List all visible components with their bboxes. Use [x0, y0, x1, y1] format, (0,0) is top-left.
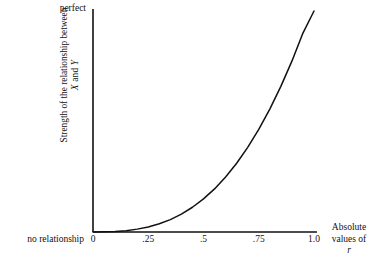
- x-axis-title-line1: Absolute: [320, 222, 378, 234]
- x-tick-label-2: .5: [189, 234, 219, 244]
- correlation-strength-chart: perfect no relationship Strength of the …: [0, 0, 378, 263]
- y-axis-title-line2: X and Y: [70, 60, 81, 90]
- strength-curve: [93, 11, 314, 232]
- y-axis-title-line1: Strength of the relationship between: [59, 8, 70, 143]
- x-tick-label-0: 0: [78, 234, 108, 244]
- x-tick-label-4: 1.0: [299, 234, 329, 244]
- x-axis-title-line3: r: [320, 245, 378, 257]
- y-axis-title: Strength of the relationship between X a…: [57, 0, 83, 155]
- x-tick-label-1: .25: [133, 234, 163, 244]
- x-tick-label-3: .75: [244, 234, 274, 244]
- x-axis-origin-label: no relationship: [4, 234, 84, 245]
